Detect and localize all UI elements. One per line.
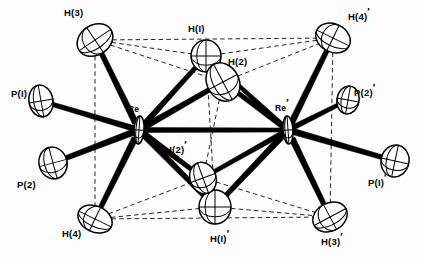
label-h1p: H(I)′ (210, 234, 229, 244)
bond-re-p1 (52, 102, 135, 131)
prime-mark: ′ (184, 140, 187, 151)
bond-rep-h1p (224, 132, 286, 197)
label-text: H(4) (348, 11, 367, 22)
bond-rep-p1p (292, 128, 383, 159)
label-text: Re (128, 104, 139, 114)
prime-mark: ′ (227, 229, 230, 240)
atom-p1 (26, 83, 55, 119)
label-text: P(I) (11, 88, 27, 99)
prime-mark: ′ (340, 232, 343, 243)
contact-h1p-h3p (231, 208, 314, 215)
structure-canvas (0, 0, 425, 258)
prime-mark: ′ (384, 173, 387, 184)
label-text: Re (275, 103, 286, 113)
label-text: H(3) (64, 7, 83, 18)
label-h4: H(4) (62, 229, 81, 239)
bond-re-h2 (142, 88, 211, 130)
contact-h3-h4p (112, 38, 316, 40)
contact-h4-h1p (111, 209, 199, 218)
prime-mark: ′ (367, 7, 370, 18)
label-text: H(2) (228, 56, 247, 67)
label-h4p: H(4)′ (348, 12, 370, 22)
label-text: P(2) (17, 179, 36, 190)
contact-h1-h4p (221, 40, 317, 54)
label-h2p: H(2)′ (165, 145, 187, 155)
atom-h1p (199, 190, 231, 224)
bond-re-h1 (141, 66, 197, 127)
prime-mark: ′ (286, 98, 289, 109)
contact-h3-h1 (112, 42, 191, 53)
bond-re-h4 (98, 137, 137, 209)
label-h2: H(2) (228, 57, 247, 67)
label-p2p: P(2)′ (354, 88, 375, 98)
ortep-figure: H(3)H(I)H(2)H(4)′P(I)P(2)′ReRe′H(2)′P(2)… (0, 0, 425, 258)
label-text: P(I) (368, 177, 384, 188)
bond-re-rep (144, 127, 284, 132)
atom-h3 (71, 17, 119, 63)
bond-rep-h3p (289, 137, 326, 206)
label-rep: Re′ (275, 104, 289, 113)
label-h3p: H(3)′ (321, 237, 343, 247)
label-text: H(3) (321, 236, 340, 247)
label-h1: H(I) (188, 24, 205, 34)
atom-h3p (308, 196, 353, 238)
contact-h4p-h3p (330, 53, 333, 203)
label-p1p: P(I)′ (368, 178, 387, 188)
label-h3: H(3) (64, 8, 83, 18)
prime-mark: ′ (373, 83, 376, 94)
label-re: Re (128, 105, 139, 114)
label-text: H(I) (210, 233, 227, 244)
label-text: H(I) (188, 23, 205, 34)
atom-p2 (35, 144, 70, 182)
contact-h2-h4p (238, 44, 319, 76)
label-text: H(4) (62, 228, 81, 239)
label-text: P(2) (354, 87, 373, 98)
contact-h4-h2p (109, 183, 191, 214)
label-p2: P(2) (17, 180, 36, 190)
label-text: H(2) (165, 144, 184, 155)
atom-h4p (311, 18, 356, 59)
label-p1: P(I) (11, 89, 27, 99)
